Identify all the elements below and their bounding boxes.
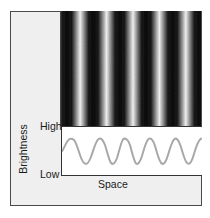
sine-wave-curve xyxy=(62,139,202,165)
x-axis-label: Space xyxy=(98,178,128,190)
y-high-label: High xyxy=(40,120,62,132)
brightness-profile-plot xyxy=(61,126,202,176)
sine-wave-grating-image xyxy=(60,11,201,126)
y-low-label: Low xyxy=(40,168,59,180)
y-axis-label: Brightness xyxy=(17,124,29,174)
